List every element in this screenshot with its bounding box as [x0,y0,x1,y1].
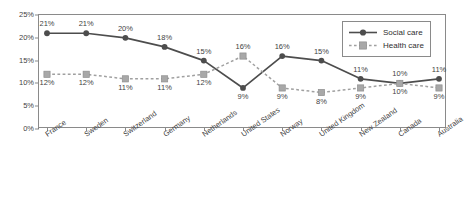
data-point-marker[interactable] [318,89,324,95]
y-tick-label: 15% [19,57,34,65]
data-point-marker[interactable] [240,53,246,59]
data-point-label: 21% [39,20,54,28]
data-point-label: 11% [157,84,171,92]
data-point-marker[interactable] [162,44,168,50]
data-point-marker[interactable] [201,58,207,64]
data-point-marker[interactable] [397,80,403,86]
data-point-marker[interactable] [436,76,442,82]
data-point-marker[interactable] [240,85,246,91]
y-tick-label: 5% [23,102,34,110]
data-point-marker[interactable] [358,76,364,82]
y-tick-label: 25% [19,11,34,19]
y-tick-label: 0% [23,125,34,133]
data-point-label: 11% [118,84,132,92]
legend-key-social-care [348,27,378,38]
data-point-label: 12% [39,79,54,87]
data-point-label: 12% [79,79,94,87]
data-point-marker[interactable] [279,53,285,59]
data-point-label: 16% [235,43,250,51]
legend-label-health-care: Health care [383,42,424,50]
data-point-label: 10% [392,88,407,96]
data-point-marker[interactable] [358,85,364,91]
y-tick-label: 20% [19,34,34,42]
data-point-label: 10% [392,70,407,78]
data-point-marker[interactable] [201,71,207,77]
data-point-marker[interactable] [44,71,50,77]
data-point-label: 9% [434,93,445,101]
legend-key-health-care [348,40,378,51]
y-tick-label: 10% [19,80,34,88]
data-point-label: 20% [118,25,133,33]
data-point-label: 15% [196,48,211,56]
legend-item-health-care[interactable]: Health care [348,39,424,52]
data-point-marker[interactable] [123,35,129,41]
data-point-label: 9% [355,93,366,101]
data-point-marker[interactable] [436,85,442,91]
data-point-marker[interactable] [44,30,50,36]
data-point-marker[interactable] [162,76,168,82]
data-point-label: 9% [277,93,288,101]
data-point-label: 11% [432,66,446,74]
data-point-label: 12% [196,79,211,87]
data-point-label: 21% [79,20,94,28]
data-point-label: 8% [316,98,327,106]
data-point-label: 16% [275,43,290,51]
data-point-label: 18% [157,34,172,42]
legend-label-social-care: Social care [383,29,423,37]
data-point-marker[interactable] [122,76,128,82]
data-point-label: 9% [238,93,249,101]
data-point-label: 15% [314,48,329,56]
chart-legend[interactable]: Social care Health care [342,21,431,57]
data-point-marker[interactable] [279,85,285,91]
data-point-marker[interactable] [83,30,89,36]
legend-item-social-care[interactable]: Social care [348,26,424,39]
data-point-marker[interactable] [83,71,89,77]
data-point-label: 11% [353,66,367,74]
data-point-marker[interactable] [319,58,325,64]
